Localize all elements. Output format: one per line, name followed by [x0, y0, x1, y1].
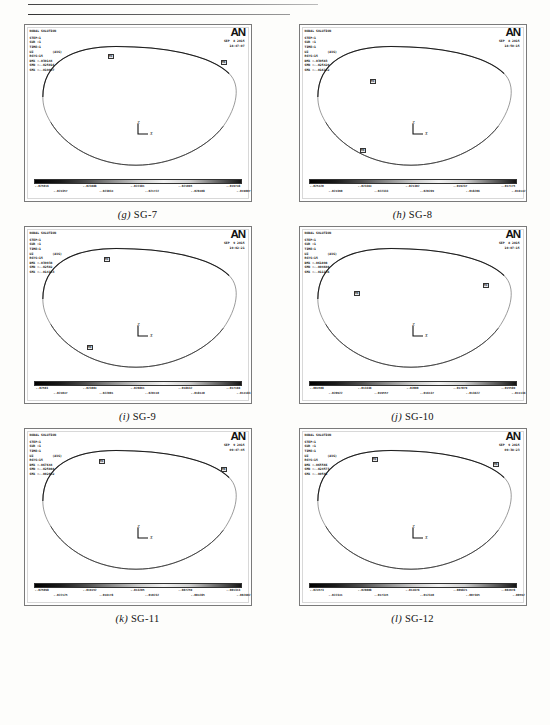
- node-marker: MN: [221, 467, 227, 472]
- colorbar-tick: -.021065: [178, 185, 192, 189]
- colorbar-tick: -.022341: [329, 594, 343, 598]
- colorbar-tick: -.017345: [374, 594, 388, 598]
- caption-label: SG-8: [409, 209, 432, 220]
- svg-text:X: X: [424, 333, 428, 338]
- colorbar-tick: -.015589: [501, 387, 515, 391]
- colorbar-tick: -.007365: [466, 594, 480, 598]
- solution-title: NODAL SOLUTION: [305, 433, 338, 438]
- svg-text:Z: Z: [412, 120, 415, 125]
- solution-line: SMX =-.00592: [305, 472, 338, 477]
- colorbar-sg-10: -.004508-.013336-.02000-.017079-.015589-…: [309, 381, 517, 399]
- colorbar-tick: -.024390: [329, 190, 343, 194]
- node-marker: MN: [493, 462, 499, 467]
- colorbar-tick: -.007259: [178, 589, 192, 593]
- plot-date: SEP 9 2015: [499, 443, 520, 447]
- colorbar-tick: -.004285: [191, 594, 205, 598]
- colorbar-tick: -.021722: [145, 190, 159, 194]
- plot-time: 09:38:23: [499, 448, 520, 452]
- svg-text:X: X: [424, 535, 428, 540]
- svg-text:X: X: [149, 535, 153, 540]
- colorbar-sg-11: -.025098-.019152-.013205-.007259-.001313…: [34, 583, 242, 601]
- node-marker: MN: [221, 60, 227, 65]
- plot-time: 09:47:45: [224, 448, 245, 452]
- caption-label: SG-7: [134, 209, 157, 220]
- colorbar-tick: -.013622: [466, 392, 480, 396]
- ansys-plot-sg-12: NODAL SOLUTIONSTEP=1SUB =1TIME=1UZ (AVG)…: [299, 428, 527, 606]
- colorbar-tick: -.016142: [512, 190, 526, 194]
- node-marker: MN: [354, 291, 360, 296]
- solution-header-sg-11: NODAL SOLUTIONSTEP=1SUB =1TIME=1UZ (AVG)…: [30, 433, 63, 477]
- figure-row: NODAL SOLUTIONSTEP=1SUB =1TIME=1UZ (AVG)…: [0, 220, 550, 422]
- colorbar-tick: -.019152: [83, 589, 97, 593]
- colorbar-tick: -.018140: [191, 392, 205, 396]
- colorbar-tick: -.024047: [54, 392, 68, 396]
- solution-header-sg-7: NODAL SOLUTIONSTEP=1SUB =1TIME=1UZ (AVG)…: [30, 29, 63, 73]
- colorbar-tick: -.013336: [358, 387, 372, 391]
- ansys-logo-icon: AN: [223, 229, 245, 240]
- solution-title: NODAL SOLUTION: [305, 29, 338, 34]
- colorbar-tick: -.012340: [420, 594, 434, 598]
- figure-caption-sg-7: (g) SG-7: [0, 209, 275, 220]
- figure-panel-sg-9: NODAL SOLUTIONSTEP=1SUB =1TIME=1UZ (AVG)…: [0, 220, 275, 422]
- colorbar-tick: -.019237: [453, 185, 467, 189]
- svg-text:Z: Z: [137, 322, 140, 327]
- node-marker: MX: [372, 457, 378, 462]
- ansys-logo-block-sg-12: ANSEP 9 201509:38:23: [499, 431, 520, 453]
- page-header-rule-bottom: [28, 14, 290, 15]
- caption-letter: (j): [391, 411, 402, 422]
- caption-letter: (g): [118, 209, 131, 220]
- ansys-logo-block-sg-7: ANSEP 8 201518:47:07: [224, 27, 245, 49]
- colorbar-tick-labels: -.025098-.019152-.013205-.007259-.001313…: [34, 588, 242, 601]
- solution-line: SMX =-.014183: [30, 270, 63, 275]
- figure-grid: NODAL SOLUTIONSTEP=1SUB =1TIME=1UZ (AVG)…: [0, 18, 550, 624]
- plot-date: SEP 9 2015: [224, 443, 245, 447]
- colorbar-tick-labels: -.025420-.023364-.021302-.019237-.017175…: [309, 184, 517, 197]
- ansys-logo-icon: AN: [498, 27, 520, 38]
- colorbar-tick: -.024357: [54, 190, 68, 194]
- colorbar-tick: -.019557: [374, 392, 388, 396]
- colorbar-tick: -.022333: [374, 190, 388, 194]
- svg-text:X: X: [149, 333, 153, 338]
- colorbar-tick-labels: -.004508-.013336-.02000-.017079-.015589-…: [309, 386, 517, 399]
- svg-text:X: X: [149, 131, 153, 136]
- node-marker: MX: [108, 54, 114, 59]
- colorbar-tick: -.025420: [310, 185, 324, 189]
- colorbar-sg-9: -.02503-.023004-.020861-.018632-.017166-…: [34, 381, 242, 399]
- figure-caption-sg-8: (h) SG-8: [275, 209, 550, 220]
- colorbar-tick: -.013205: [131, 589, 145, 593]
- colorbar-tick: -.020861: [131, 387, 145, 391]
- colorbar-tick: -.023688: [83, 185, 97, 189]
- svg-text:Z: Z: [412, 322, 415, 327]
- ansys-logo-block-sg-9: ANSEP 9 201519:02:21: [224, 229, 245, 251]
- colorbar-tick: -.025098: [35, 589, 49, 593]
- plot-time: 18:50:15: [499, 44, 520, 48]
- colorbar-tick: -.014183: [237, 392, 251, 396]
- colorbar-tick: -.010232: [145, 594, 159, 598]
- figure-panel-sg-11: NODAL SOLUTIONSTEP=1SUB =1TIME=1UZ (AVG)…: [0, 422, 275, 624]
- caption-letter: (l): [391, 613, 402, 624]
- colorbar-tick: -.020269: [420, 190, 434, 194]
- colorbar-tick: -.004508: [310, 387, 324, 391]
- colorbar-tick-labels: -.02503-.023004-.020861-.018632-.017166-…: [34, 386, 242, 399]
- colorbar-tick: -.022001: [99, 392, 113, 396]
- figure-panel-sg-12: NODAL SOLUTIONSTEP=1SUB =1TIME=1UZ (AVG)…: [275, 422, 550, 624]
- colorbar-tick: -.011136: [512, 392, 526, 396]
- colorbar-tick: -.016178: [99, 594, 113, 598]
- caption-letter: (k): [115, 613, 128, 624]
- caption-letter: (i): [119, 411, 130, 422]
- colorbar-tick: -.02000: [406, 387, 418, 391]
- plot-date: SEP 8 2015: [499, 39, 520, 43]
- colorbar-tick: -.002602: [237, 594, 251, 598]
- colorbar-tick-labels: -.024573-.020008-.014676-.009821-.004978…: [309, 588, 517, 601]
- colorbar-tick-labels: -.025016-.023688-.022381-.021065-.019748…: [34, 184, 242, 197]
- axis-triad-icon: ZX: [133, 121, 155, 139]
- colorbar-sg-12: -.024573-.020008-.014676-.009821-.004978…: [309, 583, 517, 601]
- page-header-rule-top: [28, 4, 318, 5]
- plot-time: 19:02:21: [224, 246, 245, 250]
- colorbar-tick: -.004978: [501, 589, 515, 593]
- ansys-plot-sg-10: NODAL SOLUTIONSTEP=1SUB =1TIME=1UZ (AVG)…: [299, 226, 527, 404]
- caption-label: SG-11: [131, 613, 160, 624]
- solution-header-sg-12: NODAL SOLUTIONSTEP=1SUB =1TIME=1UZ (AVG)…: [305, 433, 338, 477]
- colorbar-tick: -.023034: [99, 190, 113, 194]
- figure-row: NODAL SOLUTIONSTEP=1SUB =1TIME=1UZ (AVG)…: [0, 422, 550, 624]
